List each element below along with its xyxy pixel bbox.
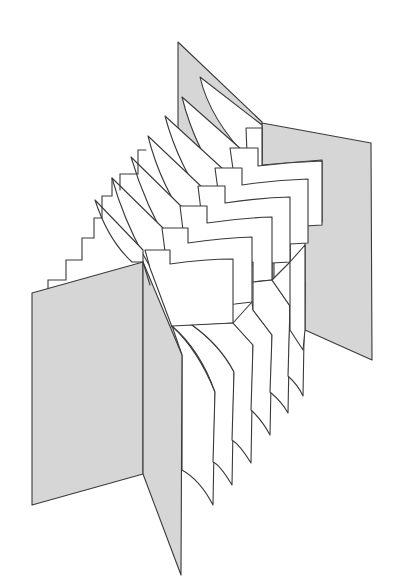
front-cover [32, 262, 182, 575]
front-cover-panel [32, 262, 143, 505]
accordion-book-illustration: Accordion-fold book (concertina) illustr… [0, 0, 394, 585]
accordion-book-drawing [0, 0, 394, 585]
